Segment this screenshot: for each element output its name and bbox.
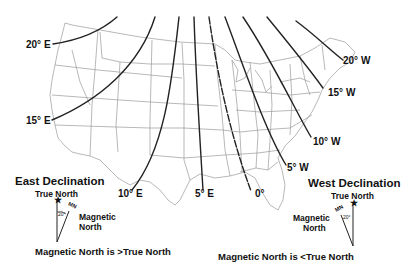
label-0: 0°: [255, 189, 265, 199]
west-true-north-star-icon: ★: [350, 199, 358, 208]
east-declination-caption: Magnetic North is >True North: [35, 247, 171, 257]
east-true-north-star-icon: ★: [54, 196, 62, 205]
label-5w: 5° W: [287, 163, 309, 173]
label-15w: 15° W: [328, 88, 355, 98]
isogonic-line-15e: [52, 17, 155, 120]
west-declination-caption: Magnetic North is <True North: [218, 252, 354, 262]
isogonic-line-20e: [53, 17, 117, 44]
label-15e: 15° E: [26, 116, 51, 126]
label-5e: 5° E: [195, 189, 214, 199]
label-20e: 20° E: [26, 40, 51, 50]
isogonic-line-5w: [225, 17, 286, 165]
west-magnetic-label-line2: North: [303, 224, 326, 233]
label-10e: 10° E: [118, 189, 143, 199]
east-angle-label: 20°: [58, 212, 66, 217]
label-20w: 20° W: [343, 56, 370, 66]
west-angle-label: 20°: [343, 215, 351, 220]
east-magnetic-label-line1: Magnetic: [79, 213, 116, 222]
isogonic-line-10w: [243, 17, 311, 137]
west-declination-title: West Declination: [308, 178, 400, 190]
declination-map: [0, 0, 409, 270]
east-magnetic-label-line2: North: [79, 223, 102, 232]
isogonic-line-15w: [267, 17, 323, 88]
label-10w: 10° W: [313, 137, 340, 147]
west-declination-diagram: [341, 205, 353, 246]
isogonic-line-0: [209, 17, 251, 191]
east-declination-title: East Declination: [15, 176, 104, 188]
west-magnetic-label-line1: Magnetic: [293, 214, 330, 223]
